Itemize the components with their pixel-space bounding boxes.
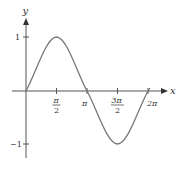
y-axis-arrow-icon (23, 18, 29, 25)
x-tick-label-pi: π (81, 99, 88, 108)
y-axis-label: y (22, 5, 29, 16)
x-axis-label: x (170, 85, 176, 96)
x-tick-label-3pi-over-2-den: 2 (115, 106, 120, 115)
x-tick-label-2pi: 2π (146, 99, 158, 108)
y-tick-label-1: 1 (15, 33, 20, 42)
x-axis-arrow-icon (161, 88, 168, 94)
x-tick-label-3pi-over-2-num: 3π (112, 96, 123, 105)
axes (12, 18, 168, 158)
x-tick-label-pi-over-2-den: 2 (54, 106, 59, 115)
x-tick-label-pi-over-2-num: π (53, 96, 60, 105)
y-tick-label-neg-1: −1 (10, 140, 22, 149)
sine-chart: y x 1 −1 π 2 π 3π 2 2π (0, 0, 185, 169)
